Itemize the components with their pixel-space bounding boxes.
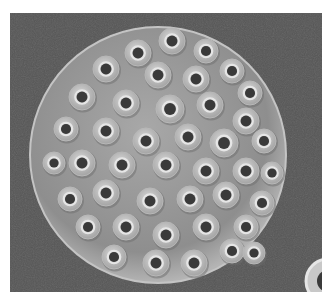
micrograph-image	[10, 13, 322, 292]
coccosphere-illustration	[10, 13, 322, 292]
